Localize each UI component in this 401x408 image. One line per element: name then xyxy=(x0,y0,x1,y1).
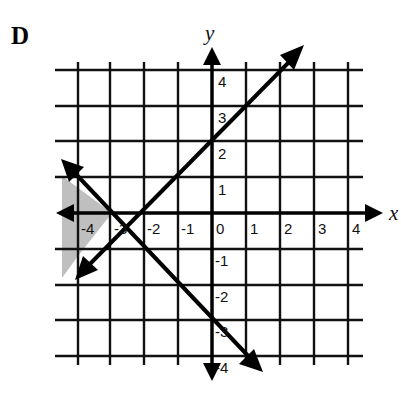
x-axis-label: x xyxy=(388,201,399,225)
x-axis-arrow-right-icon xyxy=(365,204,383,222)
svg-text:1: 1 xyxy=(218,181,226,198)
svg-text:3: 3 xyxy=(318,220,326,237)
svg-text:-3: -3 xyxy=(114,220,127,237)
svg-text:-3: -3 xyxy=(215,323,228,340)
y-axis-arrow-up-icon xyxy=(203,47,221,65)
svg-text:3: 3 xyxy=(218,109,226,126)
y-axis-label: y xyxy=(203,21,215,45)
svg-text:4: 4 xyxy=(218,73,226,90)
svg-text:-4: -4 xyxy=(215,359,228,376)
coordinate-graph: y x -4 -3 -2 -1 0 1 2 3 4 4 3 2 1 -1 -2 … xyxy=(0,0,401,408)
svg-text:2: 2 xyxy=(218,145,226,162)
svg-text:2: 2 xyxy=(284,220,292,237)
svg-text:-2: -2 xyxy=(147,220,160,237)
svg-text:0: 0 xyxy=(216,220,224,237)
svg-text:-1: -1 xyxy=(181,220,194,237)
svg-text:-4: -4 xyxy=(81,220,94,237)
svg-text:-1: -1 xyxy=(215,252,228,269)
svg-text:-2: -2 xyxy=(215,288,228,305)
svg-text:4: 4 xyxy=(352,220,360,237)
svg-text:1: 1 xyxy=(250,220,258,237)
x-tick-labels: -4 -3 -2 -1 0 1 2 3 4 xyxy=(81,220,360,237)
